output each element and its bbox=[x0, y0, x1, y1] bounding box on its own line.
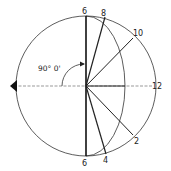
label-2: 2 bbox=[134, 137, 139, 146]
hour-line-diagram: 6 6 8 10 12 2 4 90° 0' bbox=[0, 0, 171, 171]
pointer-triangle-icon bbox=[10, 80, 17, 92]
label-top-6: 6 bbox=[82, 7, 87, 16]
label-12: 12 bbox=[152, 82, 162, 91]
label-8: 8 bbox=[101, 9, 106, 18]
angle-arrow-icon bbox=[80, 62, 85, 67]
label-10: 10 bbox=[133, 29, 143, 38]
label-bottom-6: 6 bbox=[82, 159, 87, 168]
angle-label: 90° 0' bbox=[38, 64, 61, 73]
angle-arc bbox=[62, 64, 84, 86]
label-4: 4 bbox=[103, 156, 108, 165]
